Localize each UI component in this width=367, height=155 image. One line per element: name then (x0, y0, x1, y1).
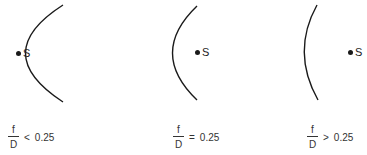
fraction-bar (307, 136, 318, 137)
fraction-bar (8, 136, 19, 137)
fraction-f-over-d: f D (307, 124, 318, 150)
comparison-operator: = (189, 132, 195, 143)
fraction-bar (173, 136, 184, 137)
fraction-denominator: D (10, 139, 17, 150)
ratio-value: 0.25 (200, 132, 219, 143)
fraction-denominator: D (309, 139, 316, 150)
fraction-f-over-d: f D (8, 124, 19, 150)
ratio-value: 0.25 (334, 132, 353, 143)
ratio-value: 0.25 (35, 132, 54, 143)
source-point-dot (16, 51, 21, 56)
fraction-numerator: f (176, 124, 181, 135)
source-label: S (202, 47, 209, 58)
fraction-f-over-d: f D (173, 124, 184, 150)
fraction-denominator: D (175, 139, 182, 150)
comparison-operator: < (24, 132, 30, 143)
fraction-numerator: f (310, 124, 315, 135)
source-label: S (355, 47, 362, 58)
ratio-label-less: f D < 0.25 (8, 124, 54, 150)
ratio-label-equal: f D = 0.25 (173, 124, 219, 150)
reflector-curve-focal-plane (173, 6, 198, 100)
source-label: S (23, 48, 30, 59)
source-point-dot (195, 50, 200, 55)
fraction-numerator: f (11, 124, 16, 135)
ratio-label-greater: f D > 0.25 (307, 124, 353, 150)
source-point-dot (348, 50, 353, 55)
reflector-curve-deep (26, 5, 64, 102)
reflector-curve-shallow (304, 5, 318, 100)
comparison-operator: > (323, 132, 329, 143)
